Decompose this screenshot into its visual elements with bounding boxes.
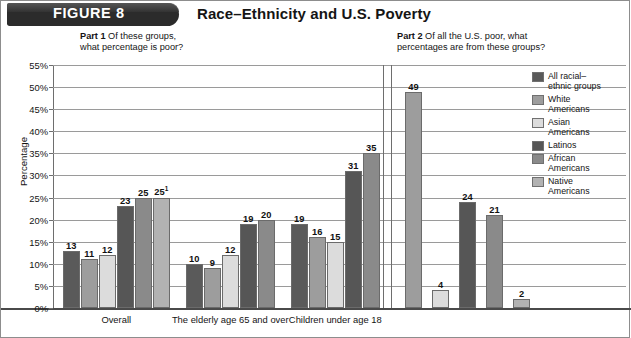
category-label: The elderly age 65 and over xyxy=(170,314,290,325)
y-axis-tick-label: 15% xyxy=(29,236,48,247)
y-axis-tick-label: 55% xyxy=(29,60,48,71)
bar: 12 xyxy=(222,255,239,308)
legend-swatch xyxy=(532,177,544,187)
bar: 31 xyxy=(345,171,362,308)
legend-label: All racial– ethnic groups xyxy=(548,71,601,91)
bar-value-label: 12 xyxy=(102,245,112,255)
y-axis-tick-label: 50% xyxy=(29,82,48,93)
gridline xyxy=(53,65,626,66)
y-axis-tick-label: 25% xyxy=(29,192,48,203)
bar-value-label: 25 xyxy=(138,188,148,198)
y-axis-line xyxy=(53,65,54,308)
legend-item: African Americans xyxy=(532,153,628,173)
bar-value-label: 12 xyxy=(225,245,235,255)
legend-swatch xyxy=(532,118,544,128)
bar-value-label: 49 xyxy=(408,82,418,92)
y-axis-tick-label: 40% xyxy=(29,126,48,137)
bar: 4 xyxy=(432,290,449,308)
bar-value-label: 9 xyxy=(210,258,215,268)
legend-label: Latinos xyxy=(548,140,576,150)
caption-lead: Part 1 xyxy=(80,31,106,41)
bar: 35 xyxy=(363,153,380,308)
bar: 13 xyxy=(63,251,80,308)
legend-label: African Americans xyxy=(548,153,590,173)
y-axis-tick-mark xyxy=(49,264,53,265)
figure-number-label: FIGURE 8 xyxy=(53,5,125,21)
bar: 16 xyxy=(309,237,326,308)
bar: 15 xyxy=(327,242,344,308)
bar: 19 xyxy=(240,224,257,308)
y-axis-tick-mark xyxy=(49,153,53,154)
legend-swatch xyxy=(532,95,544,105)
bar: 23 xyxy=(117,206,134,308)
bar-value-label: 10 xyxy=(189,254,199,264)
bar: 251 xyxy=(153,198,170,308)
panel-divider-inner xyxy=(383,65,384,308)
legend-item: Native Americans xyxy=(532,176,628,196)
y-axis-tick-label: 30% xyxy=(29,170,48,181)
caption-lead: Part 2 xyxy=(397,31,423,41)
bar-value-label: 31 xyxy=(348,161,358,171)
bar: 24 xyxy=(459,202,476,308)
legend-item: All racial– ethnic groups xyxy=(532,71,628,91)
bar-value-label: 251 xyxy=(154,185,168,197)
y-axis-tick-label: 20% xyxy=(29,214,48,225)
y-axis-tick-label: 5% xyxy=(34,280,48,291)
bar: 25 xyxy=(135,198,152,308)
bar: 2 xyxy=(513,299,530,308)
bar-value-label: 11 xyxy=(84,249,94,259)
bar-value-label: 4 xyxy=(438,280,443,290)
y-axis-tick-mark xyxy=(49,131,53,132)
y-axis-tick-mark xyxy=(49,65,53,66)
y-axis-tick-label: 10% xyxy=(29,258,48,269)
part2-caption: Part 2 Of all the U.S. poor, what percen… xyxy=(397,31,607,54)
legend-swatch xyxy=(532,141,544,151)
bar: 21 xyxy=(486,215,503,308)
bar-value-label: 21 xyxy=(489,205,499,215)
legend: All racial– ethnic groupsWhite Americans… xyxy=(532,71,628,199)
bar: 9 xyxy=(204,268,221,308)
bar-value-label: 35 xyxy=(366,143,376,153)
bar-value-label: 13 xyxy=(66,241,76,251)
y-axis-tick-mark xyxy=(49,242,53,243)
figure-title: Race–Ethnicity and U.S. Poverty xyxy=(197,5,431,22)
bar-value-label: 20 xyxy=(261,210,271,220)
legend-swatch xyxy=(532,154,544,164)
bar: 19 xyxy=(291,224,308,308)
y-axis-tick-label: 35% xyxy=(29,148,48,159)
legend-label: Asian Americans xyxy=(548,117,590,137)
y-axis-title: Percentage xyxy=(18,117,29,207)
bar-value-label: 15 xyxy=(330,232,340,242)
panel-divider xyxy=(391,65,392,308)
y-axis-tick-mark xyxy=(49,198,53,199)
category-label: Children under age 18 xyxy=(275,314,395,325)
legend-label: Native Americans xyxy=(548,176,590,196)
figure-header: FIGURE 8 Race–Ethnicity and U.S. Poverty xyxy=(1,1,631,28)
category-label: Overall xyxy=(56,314,176,325)
bar-value-label: 2 xyxy=(519,289,524,299)
bar: 10 xyxy=(186,264,203,308)
legend-swatch xyxy=(532,72,544,82)
y-axis-tick-mark xyxy=(49,175,53,176)
bar-value-label: 19 xyxy=(243,214,253,224)
bar-value-label: 19 xyxy=(294,214,304,224)
y-axis-tick-label: 0% xyxy=(34,303,48,314)
y-axis-tick-mark xyxy=(49,87,53,88)
bar: 20 xyxy=(258,220,275,308)
legend-item: White Americans xyxy=(532,94,628,114)
y-axis-tick-mark xyxy=(49,109,53,110)
y-axis-tick-label: 45% xyxy=(29,104,48,115)
legend-item: Asian Americans xyxy=(532,117,628,137)
bar: 12 xyxy=(99,255,116,308)
legend-item: Latinos xyxy=(532,140,628,151)
bar-value-label: 24 xyxy=(462,192,472,202)
bar: 11 xyxy=(81,259,98,308)
y-axis-tick-mark xyxy=(49,286,53,287)
gridline xyxy=(53,308,626,309)
y-axis-tick-mark xyxy=(49,308,53,309)
bar-value-label: 16 xyxy=(312,227,322,237)
bar-value-label: 23 xyxy=(120,196,130,206)
part1-caption: Part 1 Of these groups, what percentage … xyxy=(80,31,270,54)
legend-label: White Americans xyxy=(548,94,590,114)
